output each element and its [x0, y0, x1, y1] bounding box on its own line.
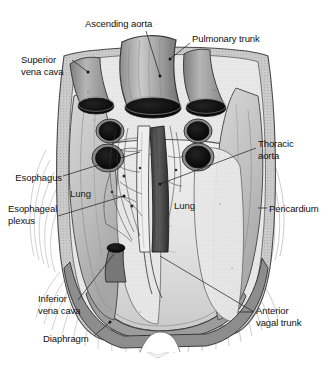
label-inferior-vena-cava: Inferior vena cava [38, 293, 80, 316]
label-thoracic-aorta: Thoracic aorta [258, 138, 294, 161]
label-esophagus: Esophagus [0, 172, 62, 184]
label-pericardium: Pericardium [269, 203, 319, 215]
label-lung-left: Lung [70, 188, 91, 199]
inferior-vena-cava-vessel [105, 244, 126, 283]
label-pulmonary-trunk: Pulmonary trunk [192, 33, 260, 45]
label-superior-vena-cava: Superior vena cava [21, 54, 63, 77]
ascending-aorta-vessel [120, 36, 181, 118]
anatomy-figure: Ascending aorta Pulmonary trunk Superior… [0, 0, 331, 371]
label-ascending-aorta: Ascending aorta [85, 18, 152, 30]
label-lung-right: Lung [174, 200, 195, 211]
label-anterior-vagal-trunk: Anterior vagal trunk [256, 305, 301, 328]
label-esophageal-plexus: Esophageal plexus [8, 203, 57, 226]
label-diaphragm: Diaphragm [43, 333, 89, 345]
thoracic-aorta-vessel [150, 126, 169, 252]
